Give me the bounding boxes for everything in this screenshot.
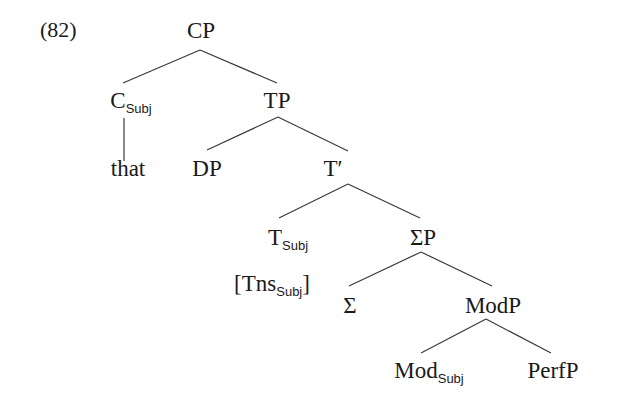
node-t-subj-subscript: Subj (282, 238, 308, 253)
node-sigma: Σ (343, 294, 356, 317)
tree-branches (0, 0, 618, 408)
edge-modp-modsubj (421, 319, 486, 353)
node-sigma-p: ΣP (410, 226, 436, 249)
node-mod-subj: ModSubj (394, 359, 463, 382)
edge-tbar-sigmap (348, 184, 420, 218)
node-mod-subj-subscript: Subj (438, 371, 464, 386)
node-t-bar: T′ (323, 157, 342, 180)
edge-tp-tbar (278, 117, 348, 151)
edge-tp-dp (207, 117, 278, 150)
node-mod-subj-label: Mod (394, 358, 437, 383)
node-tns-subj-close: ] (302, 271, 310, 296)
node-perf-p: PerfP (527, 359, 578, 382)
example-number: (82) (40, 19, 77, 41)
edge-sigmap-sigma (349, 252, 421, 286)
node-tns-subj: [TnsSubj] (234, 272, 310, 295)
edge-cp-tp (200, 50, 277, 83)
node-c-subj-label: C (110, 88, 125, 113)
node-c-subj: CSubj (110, 89, 151, 112)
node-that: that (111, 157, 146, 180)
node-t-subj: TSubj (268, 226, 308, 249)
edge-cp-csubj (123, 50, 200, 83)
node-tns-subj-subscript: Subj (276, 284, 302, 299)
edge-modp-perfp (486, 319, 551, 353)
node-t-subj-label: T (268, 225, 282, 250)
node-dp: DP (192, 157, 221, 180)
edge-sigmap-modp (421, 252, 492, 286)
node-tp: TP (264, 89, 291, 112)
edge-tbar-tsubj (279, 184, 348, 218)
node-c-subj-subscript: Subj (126, 101, 152, 116)
node-cp: CP (187, 19, 215, 42)
node-tns-subj-open: [Tns (234, 271, 276, 296)
node-mod-p: ModP (465, 294, 521, 317)
